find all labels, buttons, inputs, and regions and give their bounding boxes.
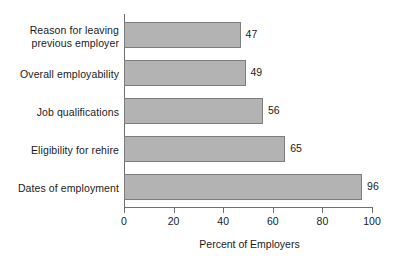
bar-value-label: 65 — [290, 142, 302, 154]
x-axis-tick-label: 0 — [121, 215, 127, 227]
plot-area: 0 20 40 60 80 100 47 49 56 65 96 — [124, 14, 372, 207]
bar — [124, 60, 246, 86]
x-axis-title-wrap: Percent of Employers — [0, 238, 401, 250]
bar-value-label: 47 — [246, 28, 258, 40]
bar-value-label: 96 — [367, 180, 379, 192]
category-label: Dates of employment — [0, 182, 119, 195]
x-axis-tick-label: 100 — [363, 215, 381, 227]
bar — [124, 174, 362, 200]
x-axis-title: Percent of Employers — [199, 238, 299, 250]
x-axis-tick — [124, 208, 125, 213]
x-axis-tick — [223, 208, 224, 213]
category-axis-labels: Reason for leaving previous employer Ove… — [0, 0, 119, 263]
bar — [124, 22, 241, 48]
x-axis-tick — [372, 208, 373, 213]
category-label: Job qualifications — [0, 106, 119, 119]
x-axis-tick — [273, 208, 274, 213]
category-label: Reason for leaving previous employer — [0, 24, 119, 49]
bar-value-label: 56 — [268, 104, 280, 116]
x-axis-tick — [174, 208, 175, 213]
x-axis-tick-label: 20 — [168, 215, 180, 227]
bar — [124, 98, 263, 124]
x-axis-tick — [322, 208, 323, 213]
x-axis-tick-label: 60 — [267, 215, 279, 227]
category-label: Overall employability — [0, 68, 119, 81]
bar — [124, 136, 285, 162]
x-axis-tick-label: 40 — [217, 215, 229, 227]
x-axis-line — [124, 207, 373, 208]
bar-chart: Reason for leaving previous employer Ove… — [0, 0, 401, 263]
category-label: Eligibility for rehire — [0, 144, 119, 157]
x-axis-tick-label: 80 — [317, 215, 329, 227]
bar-value-label: 49 — [251, 66, 263, 78]
